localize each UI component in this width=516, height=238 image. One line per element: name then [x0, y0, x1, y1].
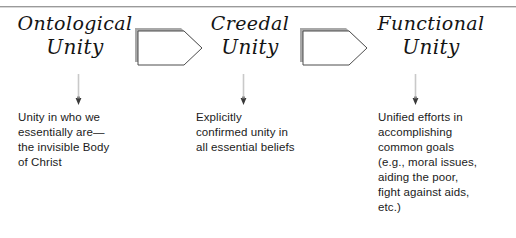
diagram-canvas: Ontological Unity Unity in who we essent…	[0, 0, 516, 238]
block-arrow-right-icon	[133, 26, 205, 68]
block-arrow-right-icon	[298, 26, 370, 68]
body-line: the invisible Body	[18, 140, 150, 155]
body-line: all essential beliefs	[196, 140, 326, 155]
body-line: confirmed unity in	[196, 125, 326, 140]
body-line: Unity in who we	[18, 110, 150, 125]
down-arrow-icon	[411, 74, 420, 106]
top-divider-rule	[0, 6, 516, 8]
stage-heading-line1: Creedal	[196, 14, 304, 33]
body-line: essentially are—	[18, 125, 150, 140]
stage-heading-line2: Unity	[368, 37, 494, 57]
stage-body-functional: Unified efforts in accomplishing common …	[378, 110, 512, 215]
stage-heading-line2: Unity	[196, 37, 304, 57]
body-line: common goals	[378, 140, 512, 155]
stage-heading-creedal: Creedal Unity	[196, 14, 304, 57]
body-line: aiding the poor,	[378, 170, 512, 185]
down-arrow-icon	[239, 74, 248, 106]
body-line: Explicitly	[196, 110, 326, 125]
down-arrow-icon	[74, 74, 83, 106]
stage-body-creedal: Explicitly confirmed unity in all essent…	[196, 110, 326, 155]
body-line: accomplishing	[378, 125, 512, 140]
body-line: fight against aids,	[378, 185, 512, 200]
stage-heading-line1: Functional	[368, 14, 494, 33]
stage-heading-line2: Unity	[6, 37, 144, 57]
body-line: etc.)	[378, 200, 512, 215]
stage-body-ontological: Unity in who we essentially are— the inv…	[18, 110, 150, 170]
stage-heading-functional: Functional Unity	[368, 14, 494, 57]
stage-heading-ontological: Ontological Unity	[6, 14, 144, 57]
body-line: Unified efforts in	[378, 110, 512, 125]
body-line: (e.g., moral issues,	[378, 155, 512, 170]
stage-heading-line1: Ontological	[6, 14, 144, 33]
body-line: of Christ	[18, 155, 150, 170]
